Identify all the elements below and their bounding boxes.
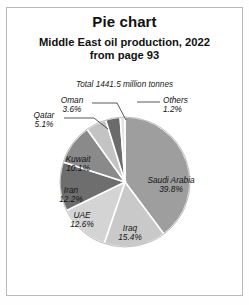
pie-label-qatar-pct: 5.1% bbox=[24, 120, 64, 129]
pie-label-iraq-pct: 15.4% bbox=[112, 233, 148, 242]
pie-label-others: Others 1.2% bbox=[163, 96, 188, 115]
pie-label-iran: Iran 12.2% bbox=[52, 186, 90, 205]
pie-label-kuwait-pct: 10.1% bbox=[55, 164, 101, 173]
pie-label-qatar: Qatar 5.1% bbox=[24, 111, 64, 130]
pie-label-saudi-arabia-pct: 39.8% bbox=[142, 185, 200, 194]
pie-label-iraq: Iraq 15.4% bbox=[112, 224, 148, 243]
pie-label-iran-pct: 12.2% bbox=[52, 195, 90, 204]
pie-label-kuwait: Kuwait 10.1% bbox=[55, 155, 101, 174]
pie-label-uae-pct: 12.6% bbox=[62, 220, 102, 229]
pie-chart bbox=[0, 0, 249, 305]
page-canvas: Pie chart Middle East oil production, 20… bbox=[0, 0, 249, 305]
pie-label-uae: UAE 12.6% bbox=[62, 211, 102, 230]
pie-label-others-pct: 1.2% bbox=[163, 105, 188, 114]
pie-label-saudi-arabia: Saudi Arabia 39.8% bbox=[142, 176, 200, 195]
